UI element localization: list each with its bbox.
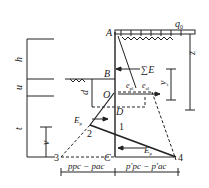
point-3-label: 3 [54, 152, 59, 163]
e-pl-label: epl [126, 81, 134, 91]
earth-pressure-diagram: q0 A B O D C 1 2 3 4 ∑E epl eal Ep Ep h … [0, 0, 209, 188]
load-label: q0 [175, 18, 183, 30]
point-c-label: C [104, 152, 111, 163]
dashed-slope-left [61, 125, 90, 157]
bottom-left-label: ppc − pac [67, 161, 105, 171]
point-4-label: 4 [178, 152, 183, 163]
net-pressure-line [90, 125, 176, 157]
ep-prime-label: Ep [143, 145, 153, 156]
u-label: u [13, 85, 24, 90]
point-1-label: 1 [119, 121, 124, 132]
y-label: y [157, 80, 168, 86]
bottom-right-label: p′pc − p′ac [125, 161, 167, 171]
point-a-label: A [105, 27, 113, 38]
ground-hatch-top [122, 37, 173, 40]
diagram-svg: q0 A B O D C 1 2 3 4 ∑E epl eal Ep Ep h … [0, 0, 209, 188]
point-2-label: 2 [87, 128, 92, 139]
sum-e-label: ∑E [141, 64, 154, 75]
surcharge-bar [115, 30, 195, 34]
d-label: d [79, 89, 90, 95]
e-al-label: eal [142, 81, 150, 91]
h-label: h [13, 57, 24, 62]
passive-pressure-line [90, 93, 114, 125]
v-label: v [40, 140, 51, 145]
point-d-label: D [115, 106, 124, 117]
ep-label: Ep [73, 115, 83, 126]
point-b-label: B [104, 68, 110, 79]
t-label: t [13, 127, 24, 130]
point-o-label: O [103, 89, 110, 100]
load-ticks [121, 30, 181, 36]
z-label: z [186, 51, 197, 56]
